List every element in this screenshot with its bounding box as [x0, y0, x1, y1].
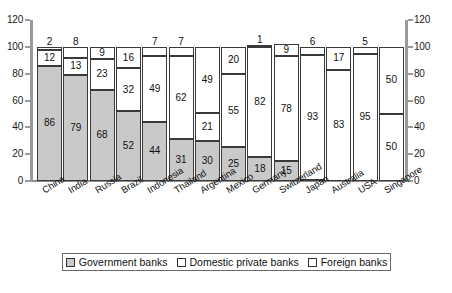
bar-segment-domestic-private-indonesia: 49: [142, 56, 167, 122]
bar-segment-domestic-private-germany: 82: [247, 47, 272, 157]
bar-value-foreign-brazil: 16: [117, 53, 140, 63]
legend-label-foreign: Foreign banks: [321, 257, 388, 268]
bar-segment-domestic-private-mexico: 55: [221, 74, 246, 148]
bar-value-government-china: 86: [38, 118, 61, 128]
bar-column-usa[interactable]: 95: [353, 20, 378, 181]
legend-label-government: Government banks: [79, 257, 168, 268]
bar-column-india[interactable]: 7913: [63, 20, 88, 181]
bar-column-australia[interactable]: 8317: [326, 20, 351, 181]
y-tick-right-40: [408, 126, 413, 128]
y-tick-left-80: [25, 73, 30, 75]
bar-value-domestic-private-argentina: 21: [196, 122, 219, 132]
y-tick-left-60: [25, 100, 30, 102]
y-axis-left-line: [30, 20, 33, 182]
legend-item-foreign: Foreign banks: [308, 257, 388, 268]
chart-figure: 020406080100120 020406080100120 28612879…: [0, 0, 452, 293]
bar-value-government-indonesia: 44: [143, 146, 166, 156]
y-tick-right-100: [408, 46, 413, 48]
bar-value-foreign-switzerland: 9: [275, 45, 298, 55]
bar-segment-foreign-brazil: 16: [116, 47, 141, 68]
y-label-right-120: 120: [414, 15, 430, 25]
bar-value-domestic-private-india: 13: [64, 61, 87, 71]
bar-segment-foreign-australia: 17: [326, 47, 351, 70]
y-tick-right-20: [408, 153, 413, 155]
bar-value-domestic-private-switzerland: 78: [275, 104, 298, 114]
y-label-left-80: 80: [0, 69, 23, 79]
bar-segment-foreign-japan: [300, 47, 325, 55]
bar-value-foreign-russia: 9: [91, 48, 114, 58]
y-label-left-120: 120: [0, 15, 23, 25]
bar-value-government-thailand: 31: [170, 155, 193, 165]
bar-segment-government-brazil: 52: [116, 111, 141, 181]
y-tick-right-80: [408, 73, 413, 75]
bar-value-government-india: 79: [64, 123, 87, 133]
bar-segment-foreign-usa: [353, 47, 378, 54]
bar-column-japan[interactable]: 93: [300, 20, 325, 181]
bar-value-domestic-private-china: 12: [38, 53, 61, 63]
bar-column-indonesia[interactable]: 4449: [142, 20, 167, 181]
y-label-left-60: 60: [0, 96, 23, 106]
y-label-left-40: 40: [0, 122, 23, 132]
y-tick-left-40: [25, 126, 30, 128]
y-tick-left-100: [25, 46, 30, 48]
bar-value-government-germany: 18: [248, 164, 271, 174]
bar-column-russia[interactable]: 68239: [90, 20, 115, 181]
bar-column-switzerland[interactable]: 15789: [274, 20, 299, 181]
bar-value-government-brazil: 52: [117, 141, 140, 151]
bar-segment-government-russia: 68: [90, 90, 115, 181]
bar-segment-foreign-china: [37, 47, 62, 50]
bar-column-germany[interactable]: 1882: [247, 20, 272, 181]
legend-item-government: Government banks: [66, 257, 168, 268]
bar-segment-foreign-switzerland: 9: [274, 44, 299, 56]
bar-segment-government-china: 86: [37, 66, 62, 181]
bar-segment-government-india: 79: [63, 75, 88, 181]
bar-column-brazil[interactable]: 523216: [116, 20, 141, 181]
bar-segment-domestic-private-thailand: 62: [169, 56, 194, 139]
bar-value-domestic-private-brazil: 32: [117, 85, 140, 95]
bar-segment-foreign-mexico: 20: [221, 47, 246, 74]
y-tick-right-60: [408, 100, 413, 102]
bar-column-mexico[interactable]: 255520: [221, 20, 246, 181]
chart-legend: Government banks Domestic private banks …: [62, 253, 391, 271]
bar-value-domestic-private-singapore: 50: [380, 142, 403, 152]
bar-segment-foreign-singapore: 50: [379, 47, 404, 114]
bar-value-domestic-private-thailand: 62: [170, 93, 193, 103]
bar-column-argentina[interactable]: 302149: [195, 20, 220, 181]
bar-value-foreign-singapore: 50: [380, 75, 403, 85]
y-label-right-100: 100: [414, 42, 430, 52]
bar-segment-foreign-india: [63, 47, 88, 58]
bar-segment-domestic-private-china: 12: [37, 50, 62, 66]
bar-segment-foreign-indonesia: [142, 47, 167, 56]
y-label-right-40: 40: [414, 122, 425, 132]
bar-group: 2861287913682395232167444973162302149255…: [37, 20, 404, 181]
bar-segment-domestic-private-australia: 83: [326, 70, 351, 181]
y-tick-left-20: [25, 153, 30, 155]
bar-segment-foreign-argentina: 49: [195, 47, 220, 113]
dom-swatch-icon: [177, 258, 186, 267]
bar-column-singapore[interactable]: 5050: [379, 20, 404, 181]
bar-segment-domestic-private-india: 13: [63, 58, 88, 75]
bar-value-foreign-argentina: 49: [196, 75, 219, 85]
y-tick-left-120: [25, 19, 30, 21]
y-tick-left-0: [25, 180, 30, 182]
y-label-right-20: 20: [414, 149, 425, 159]
y-label-left-20: 20: [0, 149, 23, 159]
bar-value-domestic-private-japan: 93: [301, 112, 324, 122]
bar-segment-foreign-russia: 9: [90, 47, 115, 59]
gov-swatch-icon: [66, 258, 75, 267]
y-tick-right-120: [408, 19, 413, 21]
bar-segment-domestic-private-singapore: 50: [379, 114, 404, 181]
y-label-right-80: 80: [414, 69, 425, 79]
bar-value-domestic-private-indonesia: 49: [143, 84, 166, 94]
bar-column-china[interactable]: 8612: [37, 20, 62, 181]
bar-segment-foreign-thailand: [169, 47, 194, 56]
bar-segment-foreign-germany: [247, 45, 272, 47]
bar-segment-domestic-private-japan: 93: [300, 55, 325, 180]
bar-value-foreign-mexico: 20: [222, 55, 245, 65]
bar-column-thailand[interactable]: 3162: [169, 20, 194, 181]
legend-item-domestic: Domestic private banks: [177, 257, 299, 268]
bar-value-domestic-private-germany: 82: [248, 97, 271, 107]
bar-value-government-argentina: 30: [196, 156, 219, 166]
bar-value-domestic-private-usa: 95: [354, 112, 377, 122]
y-label-right-60: 60: [414, 96, 425, 106]
